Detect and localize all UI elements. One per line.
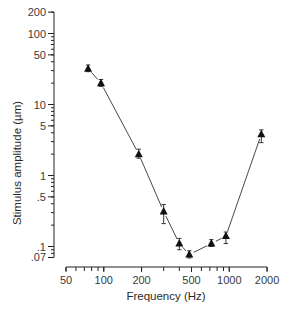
y-tick-label: 200 [28, 6, 46, 18]
x-tick-label: 200 [132, 274, 150, 286]
data-line-segment [141, 159, 162, 207]
x-axis: 5010020050010002000 [60, 267, 279, 286]
y-tick-label: .5 [37, 191, 46, 203]
data-line-segment [228, 139, 260, 231]
triangle-marker [222, 232, 230, 240]
triangle-marker [84, 64, 92, 72]
x-axis-title: Frequency (Hz) [126, 290, 205, 302]
y-tick-label: .1 [37, 241, 46, 253]
data-line-segment [194, 246, 207, 253]
triangle-marker [135, 150, 143, 158]
x-tick-label: 50 [60, 274, 72, 286]
y-tick-label: 1 [40, 170, 46, 182]
y-tick-label: 10 [34, 99, 46, 111]
triangle-marker [185, 250, 193, 258]
y-tick-label: .07 [31, 251, 46, 263]
x-tick-label: 1000 [217, 274, 241, 286]
y-axis-title: Stimulus amplitude (µm) [11, 101, 23, 225]
plot-area [84, 64, 265, 258]
data-line-segment [216, 238, 222, 241]
data-line-segment [91, 72, 97, 79]
data-line-segment [103, 88, 136, 150]
x-tick-label: 100 [95, 274, 113, 286]
triangle-marker [175, 239, 183, 247]
triangle-marker [97, 79, 105, 87]
x-tick-label: 2000 [255, 274, 279, 286]
y-tick-label: 5 [40, 120, 46, 132]
data-line-segment [183, 247, 186, 251]
y-axis: .07.1.5151050100200 [28, 6, 54, 263]
y-tick-label: 50 [34, 49, 46, 61]
triangle-marker [160, 207, 168, 215]
triangle-marker [257, 130, 265, 138]
data-line-segment [166, 216, 177, 239]
y-tick-label: 100 [28, 28, 46, 40]
triangle-marker [207, 239, 215, 247]
chart: .07.1.5151050100200 5010020050010002000 … [0, 0, 288, 317]
x-tick-label: 500 [182, 274, 200, 286]
